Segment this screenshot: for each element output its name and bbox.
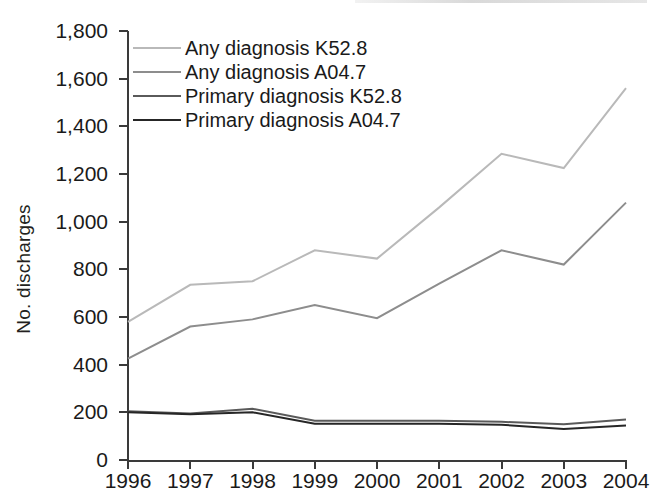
y-tick-mark: [119, 125, 128, 127]
x-tick-label: 2003: [529, 470, 599, 491]
legend-swatch-line-icon: [133, 47, 181, 49]
x-tick-label: 2002: [467, 470, 537, 491]
x-tick-mark: [501, 460, 503, 469]
x-tick-label: 1996: [93, 470, 163, 491]
y-tick-mark: [119, 364, 128, 366]
x-tick-mark: [314, 460, 316, 469]
series-line: [128, 203, 626, 359]
x-tick-mark: [438, 460, 440, 469]
legend-item[interactable]: Any diagnosis A04.7: [133, 60, 402, 84]
legend-item[interactable]: Primary diagnosis A04.7: [133, 108, 402, 132]
legend-swatch-line-icon: [133, 95, 181, 97]
y-tick-mark: [119, 221, 128, 223]
legend-item-label: Primary diagnosis K52.8: [185, 86, 402, 106]
series-line: [128, 409, 626, 424]
legend-swatch-line-icon: [133, 71, 181, 73]
legend-item-label: Any diagnosis K52.8: [185, 38, 367, 58]
x-tick-label: 2004: [591, 470, 654, 491]
x-tick-mark: [625, 460, 627, 469]
y-tick-mark: [119, 78, 128, 80]
legend-item-label: Primary diagnosis A04.7: [185, 110, 401, 130]
x-tick-label: 1998: [218, 470, 288, 491]
x-tick-mark: [563, 460, 565, 469]
legend-item[interactable]: Primary diagnosis K52.8: [133, 84, 402, 108]
legend-item[interactable]: Any diagnosis K52.8: [133, 36, 402, 60]
chart-legend: Any diagnosis K52.8Any diagnosis A04.7Pr…: [133, 36, 402, 132]
y-tick-mark: [119, 411, 128, 413]
y-tick-mark: [119, 268, 128, 270]
x-tick-mark: [376, 460, 378, 469]
x-tick-label: 1997: [155, 470, 225, 491]
x-tick-label: 2000: [342, 470, 412, 491]
y-tick-mark: [119, 316, 128, 318]
y-tick-mark: [119, 30, 128, 32]
legend-item-label: Any diagnosis A04.7: [185, 62, 366, 82]
x-tick-label: 1999: [280, 470, 350, 491]
x-tick-mark: [127, 460, 129, 469]
x-tick-mark: [189, 460, 191, 469]
y-tick-mark: [119, 173, 128, 175]
legend-swatch-line-icon: [133, 119, 181, 121]
x-tick-mark: [252, 460, 254, 469]
x-tick-label: 2001: [404, 470, 474, 491]
